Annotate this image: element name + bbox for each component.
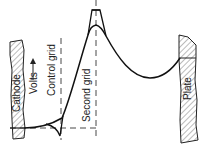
tube-potential-diagram: Cathode Plate Volts Control grid Second …: [0, 0, 205, 151]
control-grid-label: Control grid: [46, 44, 57, 96]
plate-label: Plate: [182, 77, 193, 100]
cathode-label: Cathode: [11, 74, 22, 112]
second-grid-label: Second grid: [81, 69, 92, 122]
